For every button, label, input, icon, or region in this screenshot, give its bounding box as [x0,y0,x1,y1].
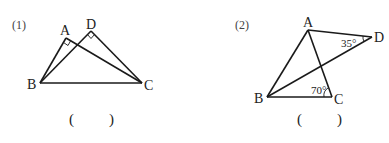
point-label-b: B [27,77,36,92]
problem-2-number: (2) [235,18,249,32]
point-label-c: C [144,78,153,93]
point-label-b: B [254,91,263,106]
answer-open-paren-1: ( [69,111,74,128]
problem-1-number: (1) [12,18,26,32]
segment-ab [267,30,308,97]
angle-value-d: 35° [341,37,356,49]
point-label-d: D [374,30,384,45]
right-angle-mark-d [88,35,95,39]
problem-2: (2) 35° 70° A D B C ( ) [235,15,384,128]
segment-ad [308,30,372,37]
answer-open-paren-2: ( [297,111,302,128]
point-label-d: D [86,17,96,32]
point-label-a: A [60,23,71,38]
point-label-c: C [334,92,343,107]
problem-1: (1) A D B C ( ) [12,17,153,128]
angle-value-c: 70° [311,84,326,96]
answer-close-paren-2: ) [337,111,342,128]
point-label-a: A [303,15,314,30]
figures-canvas: (1) A D B C ( ) (2) 35° 70° A D [0,0,389,143]
answer-close-paren-1: ) [109,111,114,128]
